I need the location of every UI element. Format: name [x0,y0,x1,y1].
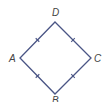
vertex-label-a: A [8,53,16,64]
rhombus-diagram: D A C B [0,0,105,102]
vertex-label-b: B [52,95,59,102]
rhombus-figure: D A C B [0,0,105,102]
rhombus-outline [20,22,91,94]
congruence-tick-marks [36,38,75,78]
vertex-label-d: D [52,7,59,18]
vertex-label-c: C [94,53,102,64]
